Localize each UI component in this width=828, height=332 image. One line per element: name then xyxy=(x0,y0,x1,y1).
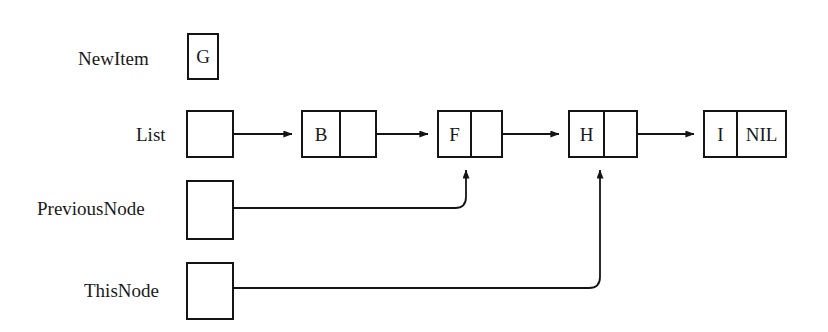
label-thisnode: ThisNode xyxy=(84,281,159,300)
label-newitem: NewItem xyxy=(78,49,149,68)
label-previousnode: PreviousNode xyxy=(37,199,145,218)
node-i-data: I xyxy=(705,112,736,156)
label-list: List xyxy=(136,125,166,144)
node-f: F xyxy=(437,110,503,158)
newitem-value: G xyxy=(189,35,217,78)
previousnode-value xyxy=(188,182,232,238)
list-value xyxy=(188,112,232,156)
node-f-data: F xyxy=(439,112,470,156)
node-h-link xyxy=(603,112,636,156)
linked-list-diagram: NewItem List PreviousNode ThisNode G B F… xyxy=(0,0,828,332)
newitem-box: G xyxy=(187,33,219,80)
node-i-link: NIL xyxy=(736,112,785,156)
thisnode-box xyxy=(186,262,234,320)
node-b: B xyxy=(301,110,377,158)
node-h: H xyxy=(568,110,638,158)
previousnode-box xyxy=(186,180,234,240)
node-b-data: B xyxy=(303,112,339,156)
node-f-link xyxy=(470,112,501,156)
node-i: I NIL xyxy=(703,110,787,158)
connection-thisnode-to-h xyxy=(210,170,600,288)
list-box xyxy=(186,110,234,158)
thisnode-value xyxy=(188,264,232,318)
connection-previousnode-to-f xyxy=(210,170,466,208)
node-h-data: H xyxy=(570,112,603,156)
node-b-link xyxy=(339,112,375,156)
